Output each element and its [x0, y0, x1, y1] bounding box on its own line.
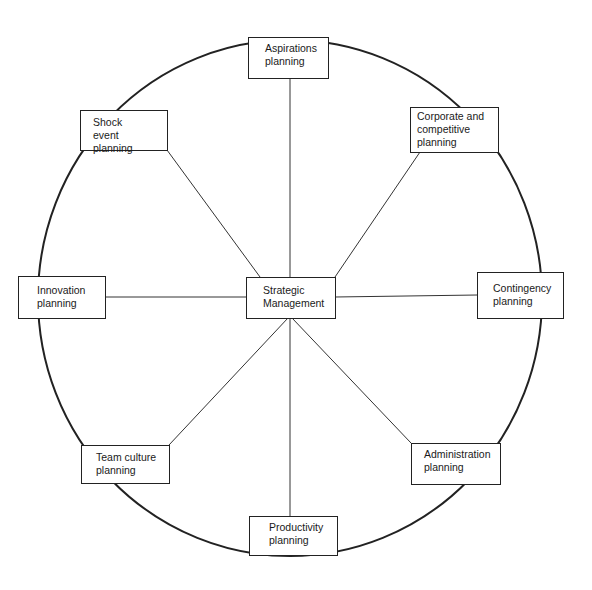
node-administration: Administration planning	[411, 443, 501, 485]
node-contingency: Contingency planning	[477, 272, 564, 319]
node-innovation: Innovation planning	[18, 276, 106, 319]
node-label: Corporate and competitive planning	[417, 110, 492, 149]
node-aspirations: Aspirations planning	[248, 37, 329, 79]
node-label: Aspirations planning	[265, 42, 322, 68]
node-label: Contingency planning	[493, 282, 557, 308]
node-label: Shock event planning	[93, 116, 161, 155]
node-label: Administration planning	[424, 448, 494, 474]
node-productivity: Productivity planning	[249, 516, 338, 556]
center-node-strategic-management: Strategic Management	[246, 277, 336, 319]
spoke-corporate	[335, 152, 420, 277]
node-team-culture: Team culture planning	[81, 445, 170, 484]
spoke-team-culture	[169, 318, 288, 445]
node-label: Innovation planning	[37, 284, 99, 310]
node-corporate: Corporate and competitive planning	[410, 107, 499, 153]
node-shock-event: Shock event planning	[80, 110, 168, 151]
spoke-administration	[292, 318, 411, 443]
node-label: Productivity planning	[269, 521, 331, 547]
center-label: Strategic Management	[263, 284, 329, 310]
node-label: Team culture planning	[96, 451, 163, 477]
spoke-shock-event	[167, 150, 260, 277]
spoke-contingency	[335, 295, 477, 297]
